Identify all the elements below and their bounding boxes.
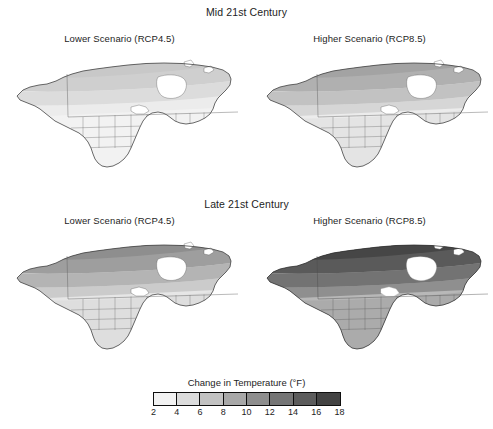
colorbar-tick-14: 14 [288,407,298,417]
map-mid-lower-rcp45 [8,48,238,188]
map-late-lower-rcp45 [8,230,238,370]
colorbar-swatch-0 [154,393,177,405]
colorbar-swatch-7 [317,393,339,405]
colorbar-tick-8: 8 [221,407,226,417]
map-mid-higher-rcp85 [258,48,488,188]
colorbar-swatch-2 [200,393,223,405]
legend: Change in Temperature (°F) 2468101214161… [0,377,493,420]
colorbar-tick-18: 18 [334,407,344,417]
colorbar-tick-6: 6 [197,407,202,417]
map-late-higher-rcp85 [258,230,488,370]
colorbar-swatch-3 [224,393,247,405]
colorbar-tick-labels: 24681012141618 [153,407,341,420]
colorbar-tick-10: 10 [241,407,251,417]
section-heading-mid: Mid 21st Century [0,6,493,18]
colorbar-tick-2: 2 [151,407,156,417]
climate-projection-figure: Mid 21st Century Lower Scenario (RCP4.5)… [0,0,493,429]
colorbar-wrapper: 24681012141618 [153,392,341,420]
legend-title: Change in Temperature (°F) [0,377,493,388]
colorbar-tick-12: 12 [265,407,275,417]
panel-title-mid-higher: Higher Scenario (RCP8.5) [262,33,477,44]
colorbar [153,392,341,406]
panel-title-late-lower: Lower Scenario (RCP4.5) [12,215,227,226]
colorbar-tick-16: 16 [311,407,321,417]
colorbar-swatch-6 [294,393,317,405]
panel-title-late-higher: Higher Scenario (RCP8.5) [262,215,477,226]
colorbar-tick-4: 4 [174,407,179,417]
colorbar-swatch-5 [270,393,293,405]
colorbar-swatch-1 [177,393,200,405]
colorbar-swatch-4 [247,393,270,405]
panel-title-mid-lower: Lower Scenario (RCP4.5) [12,33,227,44]
section-heading-late: Late 21st Century [0,198,493,210]
